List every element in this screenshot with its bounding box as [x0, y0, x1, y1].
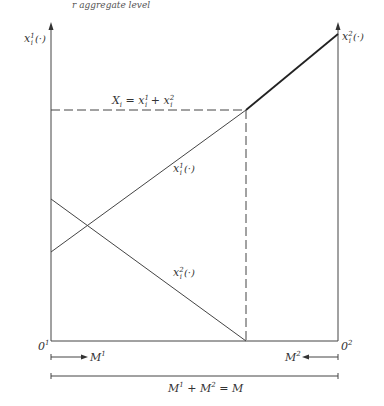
m2-label: M2 — [284, 350, 301, 364]
m2-arrowhead-icon — [302, 355, 309, 360]
diagram: x1i(·) x2i(·) Xi = x1i + x2i x1i(·) x2i(… — [0, 0, 384, 406]
m1-arrowhead-icon — [81, 355, 88, 360]
curve-x1-label: x1i(·) — [173, 162, 195, 177]
total-label: Xi = x1i + x2i — [111, 94, 175, 109]
curve-x1 — [51, 110, 246, 252]
m1-label: M1 — [89, 350, 106, 364]
origin-1-label: 01 — [38, 339, 49, 353]
right-axis-label: x2i(·) — [342, 30, 364, 45]
origin-2-label: 02 — [341, 339, 353, 353]
curve-x2-label: x2i(·) — [173, 266, 195, 281]
right-axis-arrow-icon — [336, 22, 341, 30]
left-axis-arrow-icon — [49, 22, 54, 30]
m-total-label: M1 + M2 = M — [167, 381, 244, 395]
left-axis-label: x1i(·) — [24, 32, 46, 47]
curve-x2 — [51, 199, 246, 341]
curve-total — [246, 34, 338, 110]
